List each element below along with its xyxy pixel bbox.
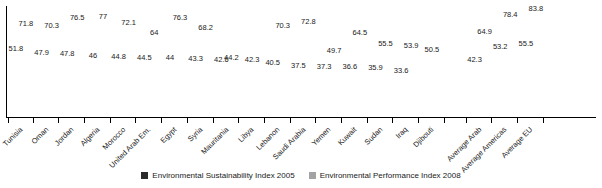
bar-epi: 49.7 [330, 56, 339, 118]
bar-group: 33.653.9 [393, 6, 419, 118]
legend-swatch-esi-icon [141, 172, 148, 179]
bar-group: 37.572.8 [291, 6, 317, 118]
bar-group: 50.5 [419, 6, 445, 118]
bar-esi: 36.6 [345, 72, 354, 118]
bar-esi: 35.9 [371, 73, 380, 118]
bar-epi: 68.2 [201, 33, 210, 118]
bar-group: 47.970.3 [34, 6, 60, 118]
environmental-index-bar-chart: 51.871.847.970.347.876.5467744.872.144.5… [0, 0, 602, 188]
bar-groups: 51.871.847.970.347.876.5467744.872.144.5… [8, 6, 594, 118]
bar-epi: 64 [150, 38, 159, 118]
bar-epi: 76.5 [73, 23, 82, 118]
bar-value-label: 72.1 [121, 18, 136, 27]
bar-epi: 50.5 [427, 55, 436, 118]
bar-value-label: 70.3 [44, 21, 59, 30]
bar-esi: 53.2 [496, 52, 505, 118]
bar-value-label: 53.9 [404, 41, 419, 50]
bar-epi: 83.8 [531, 14, 540, 118]
category-label: Mauritania [214, 123, 240, 168]
bar-epi: 70.3 [47, 31, 56, 118]
category-label: Saudi Arabia [291, 123, 317, 168]
bar-epi: 64.5 [355, 38, 364, 118]
category-label-text: Syria [186, 125, 204, 143]
bar-esi: 44.5 [140, 63, 149, 118]
bar-epi: 76.3 [175, 23, 184, 118]
bar-group: 4476.3 [162, 6, 188, 118]
bar-value-label: 64 [150, 28, 158, 37]
bar-group: 43.368.2 [188, 6, 214, 118]
bar-esi: 47.9 [37, 58, 46, 118]
bar-epi: 64.9 [480, 37, 489, 118]
bar-esi: 44 [165, 63, 174, 118]
bar-group: 44.872.1 [111, 6, 137, 118]
bar-group: 51.871.8 [8, 6, 34, 118]
bar-group: 40.570.3 [265, 6, 291, 118]
bar-value-label: 78.4 [503, 10, 518, 19]
category-label-text: Libya [237, 125, 256, 144]
bar-epi: 70.3 [278, 31, 287, 118]
bar-group: 44.564 [136, 6, 162, 118]
category-label-text: Iraq [394, 125, 410, 141]
bar-value-label: 64.9 [477, 27, 492, 36]
category-label-text: Egypt [159, 125, 179, 145]
bar-value-label: 44 [166, 53, 174, 62]
bar-group: 4677 [85, 6, 111, 118]
bar-esi: 51.8 [11, 54, 20, 118]
legend-label-esi: Environmental Sustainability Index 2005 [152, 171, 294, 180]
bar-group: 37.349.7 [316, 6, 342, 118]
bar-value-label: 42.3 [245, 55, 260, 64]
bar-esi: 42.3 [470, 65, 479, 118]
bar-value-label: 46 [89, 51, 97, 60]
bar-value-label: 44.2 [224, 53, 239, 62]
bar-esi: 46 [88, 61, 97, 118]
bar-value-label: 76.3 [173, 13, 188, 22]
bar-epi: 44.2 [227, 63, 236, 118]
bar-group: 35.955.5 [368, 6, 394, 118]
plot-area: 51.871.847.970.347.876.5467744.872.144.5… [6, 6, 596, 118]
category-label: Egypt [162, 123, 188, 168]
bar-esi: 40.5 [268, 68, 277, 118]
bar-epi: 71.8 [21, 29, 30, 118]
legend-swatch-epi-icon [309, 172, 316, 179]
bar-value-label: 77 [99, 12, 107, 21]
bar-epi: 55.5 [381, 49, 390, 118]
bar-value-label: 64.5 [352, 28, 367, 37]
legend-item-epi: Environmental Performance Index 2008 [309, 171, 461, 180]
bar-epi: 72.8 [304, 27, 313, 118]
bar-value-label: 71.8 [19, 19, 34, 28]
category-label: Yemen [316, 123, 342, 168]
bar-esi: 42.6 [217, 65, 226, 118]
bar-value-label: 70.3 [275, 21, 290, 30]
chart-legend: Environmental Sustainability Index 2005 … [0, 171, 602, 180]
category-label: Oman [34, 123, 60, 168]
bar-value-label: 68.2 [198, 23, 213, 32]
bar-epi: 78.4 [506, 20, 515, 118]
category-label: Sudan [368, 123, 394, 168]
category-label-text: Tunisia [1, 125, 24, 148]
bar-group: 53.278.4 [492, 6, 518, 118]
bar-esi: 43.3 [191, 64, 200, 118]
bar-epi: 77 [98, 22, 107, 118]
bar-esi: 37.3 [320, 72, 329, 118]
legend-label-epi: Environmental Performance Index 2008 [320, 171, 461, 180]
category-label: Jordan [59, 123, 85, 168]
bar-esi: 47.8 [63, 59, 72, 118]
bar-value-label: 72.8 [301, 17, 316, 26]
bar-group: 42.364.9 [467, 6, 493, 118]
bar-value-label: 55.5 [378, 39, 393, 48]
bar-value-label: 50.5 [425, 45, 440, 54]
bar-group-spacer [445, 6, 467, 118]
category-label: Djibouti [419, 123, 445, 168]
bar-esi: 55.5 [521, 49, 530, 118]
bar-group: 47.876.5 [59, 6, 85, 118]
bar-esi: 33.6 [397, 76, 406, 118]
bar-value-label: 49.7 [327, 46, 342, 55]
bar-group: 42.644.2 [214, 6, 240, 118]
category-label: Tunisia [8, 123, 34, 168]
bar-epi: 72.1 [124, 28, 133, 118]
legend-item-esi: Environmental Sustainability Index 2005 [141, 171, 294, 180]
category-label: United Arab Em. [136, 123, 162, 168]
category-label: Average EU [518, 123, 544, 168]
bar-value-label: 83.8 [529, 4, 544, 13]
bar-esi: 44.8 [114, 62, 123, 118]
